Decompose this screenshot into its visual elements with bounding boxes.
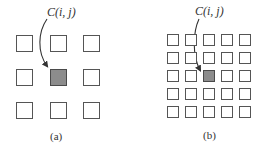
grid-cell: [221, 52, 233, 64]
grid-cell: [221, 88, 233, 100]
grid-cell: [50, 102, 67, 119]
grid-cell: [203, 88, 215, 100]
grid-cell: [167, 34, 179, 46]
grid-cell: [185, 106, 197, 118]
grid-cell: [50, 35, 67, 52]
grid-cell: [167, 70, 179, 82]
grid-cell: [83, 102, 100, 119]
caption-b: (b): [203, 129, 216, 141]
grid-cell: [167, 106, 179, 118]
grid-cell: [203, 106, 215, 118]
panel-b: C(i, j) (b): [132, 0, 265, 151]
grid-cell: [167, 52, 179, 64]
grid-cell: [185, 70, 197, 82]
grid-cell: [185, 34, 197, 46]
grid-cell: [221, 106, 233, 118]
grid-cell: [203, 34, 215, 46]
grid-cell: [16, 102, 33, 119]
grid-cell: [185, 88, 197, 100]
grid-cell: [16, 35, 33, 52]
grid-cell: [239, 52, 251, 64]
grid-cell: [16, 69, 33, 86]
grid-cell: [221, 70, 233, 82]
grid-cell: [203, 52, 215, 64]
grid-cell: [239, 106, 251, 118]
highlighted-cell: [50, 69, 67, 86]
grid-cell: [221, 34, 233, 46]
panel-a: C(i, j) (a): [0, 0, 132, 151]
caption-a: (a): [50, 130, 62, 142]
grid-cell: [83, 35, 100, 52]
grid-cell: [239, 88, 251, 100]
highlighted-cell: [203, 70, 215, 82]
grid-cell: [239, 70, 251, 82]
grid-cell: [239, 34, 251, 46]
grid-cell: [185, 52, 197, 64]
grid-cell: [83, 69, 100, 86]
grid-cell: [167, 88, 179, 100]
